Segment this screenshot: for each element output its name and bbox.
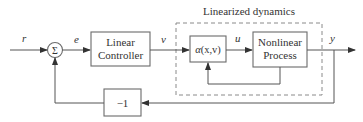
signal-y-label: y — [329, 32, 335, 44]
sigma-symbol: Σ — [52, 45, 58, 56]
signal-e-label: e — [74, 33, 79, 45]
controller-label-line2: Controller — [98, 49, 144, 61]
linearizer-label: α(x,v) — [195, 44, 221, 56]
linearizer-block: α(x,v) — [190, 36, 226, 62]
summing-junction: Σ — [48, 43, 63, 58]
block-diagram: Linearized dynamics r Σ e Linear Control… — [0, 0, 363, 122]
signal-v-label: v — [161, 33, 166, 45]
feedback-gain-block: −1 — [104, 89, 141, 116]
process-label-line2: Process — [263, 49, 297, 61]
controller-label-line1: Linear — [106, 36, 135, 48]
nonlinear-process-block: Nonlinear Process — [253, 32, 307, 67]
process-label-line1: Nonlinear — [258, 36, 302, 48]
signal-r-label: r — [22, 32, 27, 44]
signal-u-label: u — [235, 32, 241, 44]
feedback-gain-label: −1 — [117, 97, 129, 109]
linearized-dynamics-title: Linearized dynamics — [203, 5, 295, 17]
linear-controller-block: Linear Controller — [91, 32, 150, 66]
